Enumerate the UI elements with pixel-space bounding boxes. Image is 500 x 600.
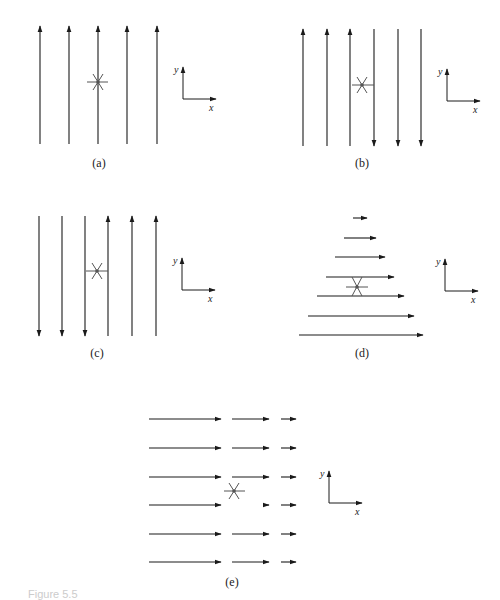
x-axis-label: x [208, 102, 214, 113]
xy-axes-icon: yx [437, 66, 480, 115]
xy-axes-icon: yx [172, 255, 215, 304]
probe-marker-icon [352, 77, 374, 93]
x-axis-label: x [207, 293, 213, 304]
y-axis-label: y [437, 66, 443, 77]
panel-d: yx(d) [299, 218, 478, 360]
panel-a: yx(a) [40, 26, 216, 170]
panel-e: yx(e) [149, 419, 362, 589]
y-axis-label: y [319, 468, 325, 479]
probe-marker-icon [224, 483, 245, 499]
figure-caption: Figure 5.5 [28, 588, 78, 600]
x-axis-label: x [470, 294, 476, 305]
panel-label: (e) [225, 575, 238, 589]
y-axis-label: y [173, 64, 179, 75]
x-axis-label: x [472, 104, 478, 115]
probe-marker-icon [346, 277, 368, 296]
y-axis-label: y [172, 255, 178, 266]
panel-b: yx(b) [303, 29, 480, 170]
figure-canvas: yx(a)yx(b)yx(c)yx(d)yx(e) [0, 0, 500, 600]
panel-label: (b) [355, 156, 369, 170]
xy-axes-icon: yx [173, 64, 216, 113]
y-axis-label: y [435, 256, 441, 267]
panel-label: (c) [90, 346, 103, 360]
xy-axes-icon: yx [435, 256, 478, 305]
panel-label: (d) [355, 346, 369, 360]
panel-c: yx(c) [39, 216, 215, 360]
panel-label: (a) [92, 156, 105, 170]
x-axis-label: x [354, 506, 360, 517]
xy-axes-icon: yx [319, 468, 362, 517]
probe-marker-icon [86, 263, 108, 279]
